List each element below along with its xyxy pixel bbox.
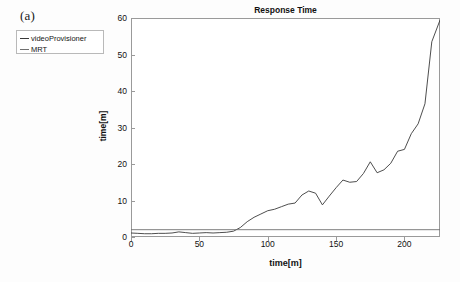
chart-title: Response Time	[131, 5, 440, 15]
y-tick-mark	[131, 128, 135, 129]
legend-line-swatch-mrt	[20, 49, 29, 50]
chart-legend: videoProvisioner MRT	[16, 30, 104, 54]
x-tick-mark	[131, 237, 132, 241]
plot-area	[131, 18, 440, 237]
series-line-videoprovisioner	[131, 20, 440, 234]
legend-label-videoprovisioner: videoProvisioner	[31, 34, 86, 43]
y-tick-label: 0	[101, 232, 127, 242]
y-tick-mark	[131, 91, 135, 92]
y-tick-label: 60	[101, 13, 127, 23]
y-tick-mark	[131, 201, 135, 202]
y-axis-label-holder: time[m]	[112, 30, 126, 220]
x-axis-ticks: 050100150200	[131, 239, 440, 255]
x-axis-label: time[m]	[131, 258, 440, 268]
legend-label-mrt: MRT	[31, 45, 47, 54]
y-axis-label: time[m]	[98, 111, 108, 142]
y-tick-mark	[131, 164, 135, 165]
x-tick-mark	[404, 237, 405, 241]
x-tick-mark	[336, 237, 337, 241]
legend-item-videoprovisioner: videoProvisioner	[20, 33, 100, 43]
y-tick-mark	[131, 18, 135, 19]
panel-label: (a)	[20, 8, 35, 24]
legend-item-mrt: MRT	[20, 44, 100, 54]
plot-canvas	[131, 18, 440, 237]
legend-line-swatch-videoprovisioner	[20, 38, 29, 39]
y-tick-mark	[131, 55, 135, 56]
chart-screenshot: (a) videoProvisioner MRT Response Time 0…	[0, 0, 460, 282]
x-tick-mark	[199, 237, 200, 241]
x-tick-mark	[268, 237, 269, 241]
